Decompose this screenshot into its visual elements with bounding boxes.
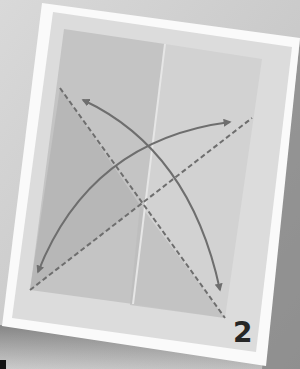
paper-sheet [30, 29, 262, 318]
origami-step-diagram: 2 [0, 0, 300, 369]
edge-mark [0, 360, 6, 369]
diagram-canvas: 2 [0, 0, 300, 369]
step-number: 2 [233, 316, 252, 349]
